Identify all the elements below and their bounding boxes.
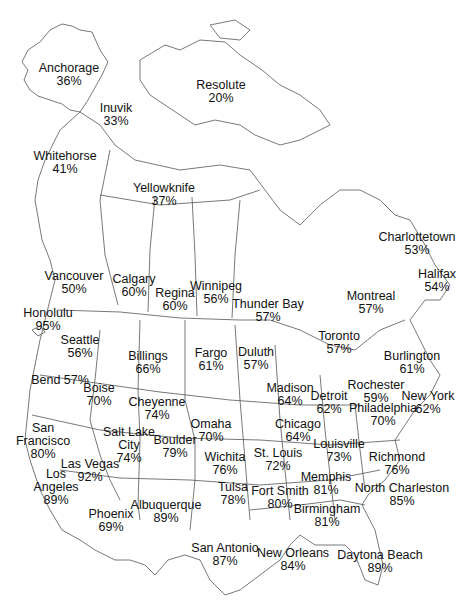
city-value: 62%	[311, 403, 348, 416]
city-value: 76%	[205, 464, 246, 477]
city-value: 60%	[155, 300, 195, 313]
city-label: Albuquerque89%	[131, 499, 202, 525]
city-label: Anchorage36%	[39, 62, 99, 88]
city-label: Montreal57%	[347, 290, 396, 316]
city-value: 89%	[33, 494, 78, 507]
city-value: 36%	[39, 75, 99, 88]
city-label: Louisville73%	[313, 438, 364, 464]
city-label: Vancouver50%	[45, 270, 104, 296]
city-label: New Orleans84%	[257, 547, 329, 573]
city-label: Yellowknife37%	[133, 182, 195, 208]
city-value: 85%	[355, 495, 450, 508]
city-label: Honolulu95%	[23, 307, 72, 333]
city-value: 66%	[128, 363, 168, 376]
city-value: 57%	[318, 343, 360, 356]
city-value: 73%	[313, 451, 364, 464]
city-value: 95%	[23, 320, 72, 333]
city-label: Boise70%	[83, 382, 114, 408]
city-value: 74%	[129, 409, 186, 422]
city-label: Daytona Beach89%	[337, 549, 422, 575]
city-value: 61%	[195, 360, 228, 373]
city-label: Burlington61%	[384, 350, 440, 376]
city-value: 60%	[112, 286, 155, 299]
city-label: Madison64%	[266, 382, 313, 408]
city-value: 81%	[294, 516, 361, 529]
city-value: 72%	[254, 460, 303, 473]
city-value: 37%	[133, 195, 195, 208]
city-label: St. Louis72%	[254, 447, 303, 473]
city-label: North Charleston85%	[355, 482, 450, 508]
city-value: 57%	[232, 311, 304, 324]
city-value: 57%	[347, 303, 396, 316]
city-label: Billings66%	[128, 350, 168, 376]
city-label: Inuvik33%	[100, 102, 133, 128]
city-label: Toronto57%	[318, 330, 360, 356]
city-value: 87%	[191, 555, 258, 568]
city-value: 57%	[238, 359, 274, 372]
city-label: San Antonio87%	[191, 542, 258, 568]
city-value: 56%	[61, 347, 100, 360]
city-value: 79%	[153, 447, 196, 460]
city-value: 33%	[100, 115, 133, 128]
city-value: 84%	[257, 560, 329, 573]
city-label: SanFrancisco80%	[16, 422, 70, 461]
city-label: Detroit62%	[311, 390, 348, 416]
city-value: 76%	[369, 464, 425, 477]
city-value: 64%	[266, 395, 313, 408]
city-value: 69%	[88, 521, 133, 534]
city-label: Seattle56%	[61, 334, 100, 360]
city-label: Boulder79%	[153, 434, 196, 460]
city-value: 78%	[218, 494, 248, 507]
city-label: Phoenix69%	[88, 508, 133, 534]
city-label: Richmond76%	[369, 451, 425, 477]
city-label: Resolute20%	[196, 79, 245, 105]
city-label: Tulsa78%	[218, 481, 248, 507]
city-value: 70%	[83, 395, 114, 408]
city-value: 70%	[349, 415, 417, 428]
city-value: 61%	[384, 363, 440, 376]
city-label: Whitehorse41%	[33, 150, 96, 176]
city-value: 53%	[378, 244, 455, 257]
city-label: Wichita76%	[205, 451, 246, 477]
city-label: Birmingham81%	[294, 503, 361, 529]
city-value: 70%	[191, 431, 232, 444]
city-label: LosAngeles89%	[33, 468, 78, 507]
city-label: Cheyenne74%	[129, 396, 186, 422]
city-label: Omaha70%	[191, 418, 232, 444]
city-name: Bend	[31, 373, 64, 387]
city-label: Charlottetown53%	[378, 231, 455, 257]
city-value: 54%	[418, 281, 456, 294]
city-value: 89%	[337, 562, 422, 575]
city-value: 20%	[196, 92, 245, 105]
city-label: Halifax54%	[418, 268, 456, 294]
city-label: Calgary60%	[112, 273, 155, 299]
city-value: 50%	[45, 283, 104, 296]
city-label: Bend 57%	[31, 374, 89, 387]
city-label: Regina60%	[155, 287, 195, 313]
city-label: Philadelphia70%	[349, 402, 417, 428]
city-value: 41%	[33, 163, 96, 176]
map-canvas: Anchorage36%Resolute20%Inuvik33%Whitehor…	[0, 0, 473, 609]
city-value: 89%	[131, 512, 202, 525]
city-label: Fargo61%	[195, 347, 228, 373]
city-label: Thunder Bay57%	[232, 298, 304, 324]
city-label: Duluth57%	[238, 346, 274, 372]
